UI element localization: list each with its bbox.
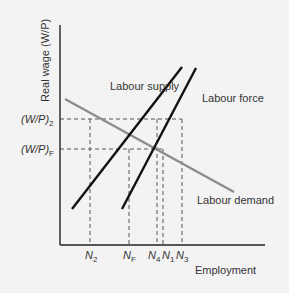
labour-market-diagram: Real wage (W/P) (W/P)2 (W/P)F N2 NF N4 N… [0, 0, 289, 293]
y-tick-wpf: (W/P)F [21, 143, 54, 158]
x-axis-label: Employment [195, 264, 256, 276]
x-tick-n4: N4 [148, 249, 161, 264]
x-tick-n3: N3 [176, 249, 189, 264]
labour-force-label: Labour force [202, 92, 264, 104]
labour-supply-label: Labour supply [110, 80, 180, 92]
x-tick-n2: N2 [85, 249, 98, 264]
x-tick-n1: N1 [162, 249, 175, 264]
y-axis-label: Real wage (W/P) [39, 19, 51, 102]
x-tick-nf: NF [123, 249, 136, 264]
y-tick-wp2: (W/P)2 [21, 113, 54, 128]
labour-demand-label: Labour demand [197, 194, 274, 206]
guide-lines [60, 119, 182, 245]
